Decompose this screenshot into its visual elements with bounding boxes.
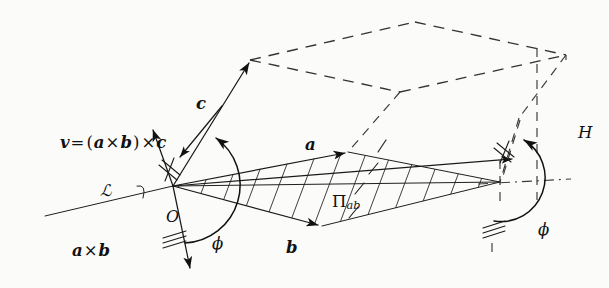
plane-pi-ab <box>160 140 546 236</box>
label-v-b: b <box>120 133 132 152</box>
right-vertex-tick-marks <box>483 141 514 252</box>
label-line-l: ℒ <box>100 183 112 199</box>
label-a-cross-b: a×b <box>72 243 110 260</box>
vector-diagram-figure: v=(a×b)×c c ℒ O a×b ϕ a b Πab ϕ H <box>0 0 609 288</box>
label-v-a: a <box>94 133 105 152</box>
label-vector-c: c <box>196 96 206 113</box>
vector-a-cross-b-arrow <box>173 186 190 268</box>
label-v-c: c <box>156 133 166 152</box>
label-axb-b: b <box>99 241 111 260</box>
label-v-cross2: × <box>140 133 156 152</box>
label-origin: O <box>166 209 179 225</box>
label-vector-a: a <box>305 137 316 154</box>
label-axb-a: a <box>72 241 83 260</box>
label-plane-pi-ab: Πab <box>332 194 361 212</box>
label-axb-cross: × <box>83 241 99 260</box>
label-v-equals: = <box>70 133 86 152</box>
label-v-open-paren: ( <box>85 133 93 152</box>
label-v-lead: v <box>60 133 70 152</box>
label-phi-right: ϕ <box>538 222 549 239</box>
label-pi-subscript: ab <box>346 199 360 212</box>
dashed-parallelepiped <box>250 22 566 182</box>
label-height-h: H <box>578 125 592 142</box>
label-pi-symbol: Π <box>332 192 346 211</box>
label-vector-b: b <box>286 240 298 257</box>
label-v-expression: v=(a×b)×c <box>60 135 166 152</box>
label-phi-left: ϕ <box>212 236 223 253</box>
label-v-cross1: × <box>105 133 121 152</box>
